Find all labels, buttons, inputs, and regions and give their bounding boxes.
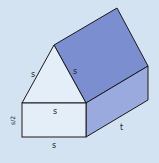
house-prism-diagram: s s s s s/2 t [0,0,159,163]
label-roof-left: s [31,70,35,79]
label-roof-right: s [73,67,77,76]
label-wall-top: s [53,107,57,116]
label-depth: t [120,123,123,132]
label-wall-height: s/2 [9,116,16,125]
diagram-svg: s s s s s/2 t [0,0,159,163]
label-wall-bottom: s [52,141,56,150]
